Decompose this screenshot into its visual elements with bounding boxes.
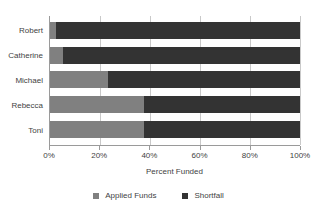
x-axis-tick-label: 100% bbox=[290, 151, 310, 160]
bar-segment-applied-funds bbox=[50, 121, 144, 138]
gridline bbox=[300, 16, 301, 145]
funding-bar-chart: RobertCatherineMichaelRebeccaToni 0%20%4… bbox=[0, 0, 317, 212]
bar-segment-shortfall bbox=[144, 96, 300, 113]
category-label: Catherine bbox=[0, 47, 46, 64]
x-axis-tick-label: 20% bbox=[91, 151, 107, 160]
x-axis-tick-label: 40% bbox=[141, 151, 157, 160]
legend-item[interactable]: Applied Funds bbox=[93, 191, 156, 200]
tick-mark bbox=[200, 146, 201, 150]
tick-mark bbox=[99, 146, 100, 150]
bar-segment-shortfall bbox=[56, 22, 300, 39]
category-axis-labels: RobertCatherineMichaelRebeccaToni bbox=[0, 16, 46, 146]
bar-segment-shortfall bbox=[144, 121, 300, 138]
tick-mark bbox=[149, 146, 150, 150]
x-axis-tick-marks bbox=[49, 146, 300, 150]
x-axis-title: Percent Funded bbox=[49, 167, 300, 176]
bar-segment-applied-funds bbox=[50, 71, 108, 88]
bar-series-group bbox=[50, 16, 300, 145]
bar-row bbox=[50, 47, 300, 64]
x-axis-tick-label: 80% bbox=[242, 151, 258, 160]
bar-segment-shortfall bbox=[108, 71, 301, 88]
bar-row bbox=[50, 121, 300, 138]
plot-area bbox=[49, 16, 300, 146]
legend-label: Applied Funds bbox=[105, 191, 156, 200]
category-label: Toni bbox=[0, 122, 46, 139]
bar-row bbox=[50, 96, 300, 113]
bar-segment-shortfall bbox=[63, 47, 301, 64]
x-axis-tick-label: 60% bbox=[192, 151, 208, 160]
tick-mark bbox=[300, 146, 301, 150]
category-label: Rebecca bbox=[0, 97, 46, 114]
category-label: Michael bbox=[0, 72, 46, 89]
bar-segment-applied-funds bbox=[50, 47, 63, 64]
bar-segment-applied-funds bbox=[50, 96, 144, 113]
tick-mark bbox=[49, 146, 50, 150]
bar-row bbox=[50, 22, 300, 39]
category-label: Robert bbox=[0, 22, 46, 39]
tick-mark bbox=[250, 146, 251, 150]
legend-item[interactable]: Shortfall bbox=[182, 191, 223, 200]
x-axis-tick-label: 0% bbox=[43, 151, 55, 160]
legend-swatch-icon bbox=[182, 193, 188, 199]
chart-legend: Applied FundsShortfall bbox=[0, 191, 317, 200]
x-axis-tick-labels: 0%20%40%60%80%100% bbox=[0, 151, 317, 163]
legend-swatch-icon bbox=[93, 193, 99, 199]
bar-row bbox=[50, 71, 300, 88]
legend-label: Shortfall bbox=[194, 191, 223, 200]
